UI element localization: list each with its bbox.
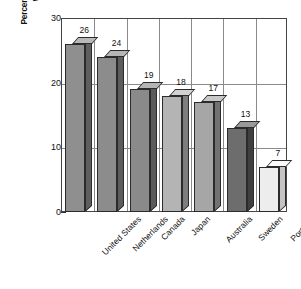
y-axis-tick-label: 30: [39, 13, 61, 23]
x-axis-labels: United StatesNetherlandsCanadaJapanAustr…: [61, 214, 301, 284]
bar-value-label: 18: [166, 77, 196, 87]
x-axis-label-australia: Australia: [224, 214, 254, 244]
bar-value-label: 7: [263, 148, 293, 158]
bar-side-face: [117, 51, 124, 212]
bar-sweden: [227, 128, 247, 212]
bar-top-face: [72, 37, 98, 44]
y-axis-tick-label: 20: [39, 78, 61, 88]
bars-layer: 2624191817137: [61, 18, 287, 212]
bar-side-face: [214, 96, 221, 212]
y-axis-tick-label: 0: [39, 207, 61, 217]
bar-canada: [130, 89, 150, 212]
x-axis-label-japan: Japan: [189, 214, 212, 237]
bar-top-face: [104, 50, 130, 57]
bar-front-face: [65, 44, 85, 212]
bar-front-face: [97, 57, 117, 212]
bar-front-face: [259, 167, 279, 212]
bar-front-face: [162, 96, 182, 212]
y-axis-title-line-2: with a University Degree: [30, 0, 41, 1]
bar-top-face: [266, 160, 292, 167]
bar-chart: Percentage of People, Ages 25 to 64, wit…: [0, 0, 301, 289]
bar-front-face: [227, 128, 247, 212]
bar-united-states: [65, 44, 85, 212]
x-axis-label-sweden: Sweden: [256, 214, 285, 243]
bar-japan: [162, 96, 182, 212]
y-axis-tick-label: 10: [39, 142, 61, 152]
bar-side-face: [182, 89, 189, 212]
bar-front-face: [130, 89, 150, 212]
bar-value-label: 19: [134, 70, 164, 80]
bar-portugal: [259, 167, 279, 212]
bar-side-face: [85, 38, 92, 212]
bar-value-label: 13: [231, 109, 261, 119]
bar-value-label: 17: [198, 83, 228, 93]
bar-value-label: 26: [69, 25, 99, 35]
bar-side-face: [247, 122, 254, 212]
y-axis-ticks: 0102030: [33, 18, 61, 212]
y-axis-title-line-1: Percentage of People, Ages 25 to 64,: [19, 0, 30, 25]
x-axis-label-portugal: Portugal: [288, 214, 301, 243]
bar-side-face: [150, 83, 157, 212]
bar-netherlands: [97, 57, 117, 212]
bar-front-face: [194, 102, 214, 212]
bar-top-face: [137, 82, 163, 89]
bar-top-face: [169, 89, 195, 96]
y-axis-tick-mark: [61, 212, 66, 213]
bar-side-face: [279, 160, 286, 212]
bar-australia: [194, 102, 214, 212]
bar-top-face: [201, 95, 227, 102]
bar-value-label: 24: [101, 38, 131, 48]
bar-top-face: [234, 121, 260, 128]
